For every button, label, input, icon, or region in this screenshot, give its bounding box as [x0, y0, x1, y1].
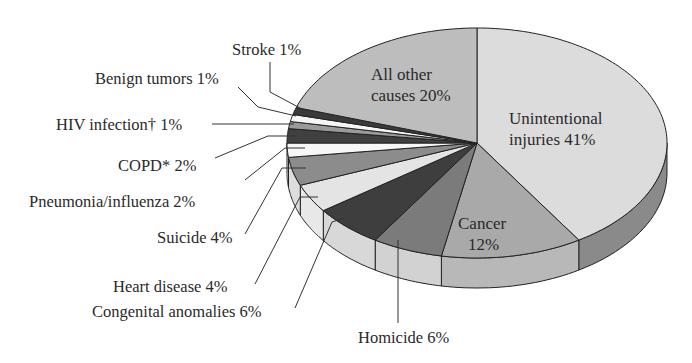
label-unintentional-2: injuries 41% — [509, 130, 595, 149]
label-hiv-infection: HIV infection† 1% — [56, 115, 182, 134]
label-stroke: Stroke 1% — [232, 40, 301, 59]
label-cancer-1: Cancer — [458, 214, 506, 233]
label-pneumonia-influenza: Pneumonia/influenza 2% — [29, 192, 196, 211]
pie-chart: Stroke 1% Benign tumors 1% HIV infection… — [0, 0, 692, 363]
label-all-other-1: All other — [371, 65, 432, 84]
label-all-other-2: causes 20% — [371, 86, 451, 105]
leader-stroke — [270, 62, 300, 108]
label-copd: COPD* 2% — [118, 156, 197, 175]
label-suicide: Suicide 4% — [157, 228, 233, 247]
leader-copd — [215, 136, 296, 158]
label-heart-disease: Heart disease 4% — [113, 277, 228, 296]
label-homicide: Homicide 6% — [358, 328, 449, 347]
label-cancer-2: 12% — [468, 235, 499, 254]
label-congenital-anomalies: Congenital anomalies 6% — [92, 302, 262, 321]
label-unintentional-1: Unintentional — [509, 109, 603, 128]
label-benign-tumors: Benign tumors 1% — [95, 69, 219, 88]
